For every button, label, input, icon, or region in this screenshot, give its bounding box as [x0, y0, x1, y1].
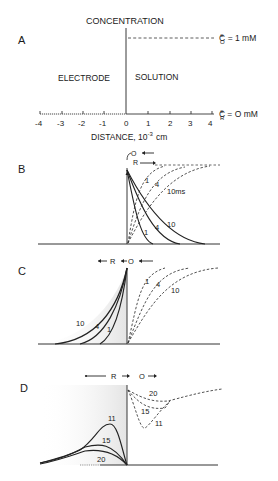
oxidized-profiles-c [128, 268, 218, 343]
svg-text:11: 11 [155, 419, 163, 428]
svg-text:10: 10 [76, 319, 84, 328]
svg-text:10ms: 10ms [167, 187, 186, 196]
svg-text:4: 4 [208, 119, 213, 128]
solution-region-label: SOLUTION [135, 72, 178, 82]
panel-d-letter: D [20, 382, 28, 394]
co-label: CoO= 1 mM [219, 32, 256, 45]
svg-text:15: 15 [141, 407, 149, 416]
svg-text:1: 1 [145, 176, 149, 185]
reduced-profiles-b [127, 170, 205, 244]
panel-a-letter: A [18, 34, 26, 46]
electrode-region-label: ELECTRODE [58, 73, 110, 83]
svg-text:10: 10 [167, 220, 175, 229]
svg-text:1: 1 [107, 325, 111, 334]
distance-axis-label: DISTANCE, 10-3cm [91, 131, 167, 142]
svg-text:1: 1 [146, 119, 151, 128]
svg-text:10: 10 [171, 286, 179, 295]
dashed-time-labels-d: 20 15 11 [141, 389, 163, 428]
concentration-title: CONCENTRATION [86, 16, 164, 26]
r-label: R [111, 372, 117, 381]
svg-text:0: 0 [124, 119, 129, 128]
panel-b: B O R 1 4 10ms 1 [18, 150, 220, 244]
solid-time-labels-b: 1 4 10 [144, 220, 175, 237]
svg-text:3: 3 [188, 119, 193, 128]
o-label: O [131, 150, 137, 157]
svg-text:20: 20 [97, 455, 105, 464]
panel-c: C R O 10 4 1 1 4 [18, 257, 220, 344]
panel-a: A CONCENTRATION CoO= 1 mM ELECTRODE SOLU… [18, 16, 258, 142]
svg-text:1: 1 [144, 228, 148, 237]
svg-text:20: 20 [149, 389, 157, 398]
axis-tick-labels: -4 -3 -2 -1 0 1 2 3 4 [35, 119, 213, 128]
svg-text:-1: -1 [99, 119, 107, 128]
svg-text:15: 15 [102, 436, 110, 445]
panel-d: D R O 11 15 20 20 [20, 372, 222, 465]
r-label: R [133, 159, 138, 166]
oxidized-profiles-b [128, 166, 210, 243]
svg-text:4: 4 [156, 280, 160, 289]
svg-text:-3: -3 [57, 119, 65, 128]
concentration-profile-diagram: A CONCENTRATION CoO= 1 mM ELECTRODE SOLU… [0, 0, 278, 481]
svg-text:2: 2 [168, 119, 173, 128]
svg-text:-4: -4 [35, 119, 43, 128]
panel-c-letter: C [18, 265, 26, 277]
svg-text:1: 1 [145, 277, 149, 286]
o-label: O [128, 257, 134, 266]
dashed-time-labels-c: 1 4 10 [145, 277, 179, 295]
cr-label: CoR= O mM [219, 108, 258, 121]
panel-b-letter: B [18, 163, 25, 175]
svg-text:-2: -2 [78, 119, 86, 128]
dashed-time-labels-b: 1 4 10ms [145, 176, 186, 196]
svg-text:4: 4 [155, 223, 159, 232]
shaded-region-c [40, 268, 127, 344]
shaded-region-d [40, 385, 127, 465]
o-label: O [139, 372, 145, 381]
svg-text:4: 4 [95, 322, 99, 331]
svg-text:4: 4 [155, 180, 159, 189]
svg-text:11: 11 [108, 414, 116, 423]
r-label: R [110, 257, 116, 266]
